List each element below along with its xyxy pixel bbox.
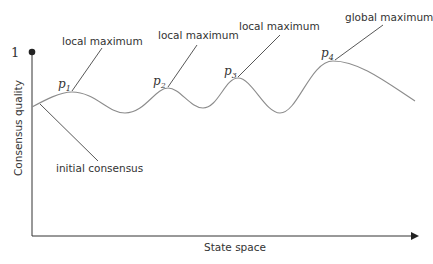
leader-initial-consensus xyxy=(40,104,98,161)
y-max-tick: 1 xyxy=(11,45,19,60)
leader-p4 xyxy=(335,25,383,60)
p1-annotation-label: local maximum xyxy=(62,35,143,47)
p3-annotation-label: local maximum xyxy=(239,20,320,32)
y-axis-label: Consensus quality xyxy=(12,80,24,176)
point-p3: p3 xyxy=(224,64,237,80)
point-p1: p1 xyxy=(58,77,71,93)
p2-annotation-label: local maximum xyxy=(158,29,239,41)
point-p4: p4 xyxy=(321,46,334,62)
initial-consensus-label: initial consensus xyxy=(56,162,143,174)
point-p2: p2 xyxy=(153,74,166,90)
p4-annotation-label: global maximum xyxy=(345,11,433,23)
leader-p1 xyxy=(72,48,102,91)
x-axis-label: State space xyxy=(204,241,266,253)
y-axis-top-dot xyxy=(29,49,36,56)
consensus-landscape-diagram: 1 Consensus quality State space initial … xyxy=(0,0,433,264)
leader-p2 xyxy=(168,45,197,87)
x-axis-arrow-icon xyxy=(411,232,419,240)
leader-p3 xyxy=(238,35,280,77)
